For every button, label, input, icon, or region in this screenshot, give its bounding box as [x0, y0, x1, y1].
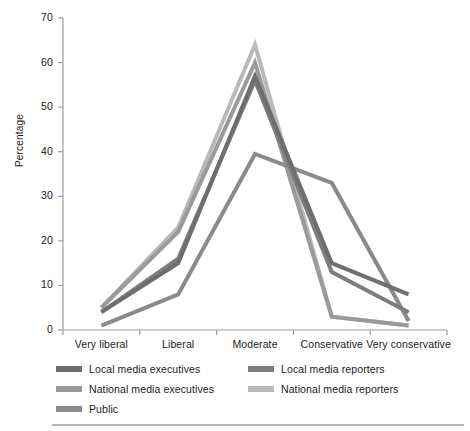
legend-swatch-icon — [248, 386, 274, 392]
y-axis-tick-label: 70 — [27, 11, 53, 23]
y-axis-tick-label: 40 — [27, 145, 53, 157]
y-axis-tick-label: 30 — [27, 189, 53, 201]
legend-swatch-icon — [56, 386, 82, 392]
chart-legend: Local media executivesLocal media report… — [56, 362, 456, 422]
x-axis-tick-label: Very conservative — [349, 338, 469, 350]
legend-swatch-icon — [56, 406, 82, 412]
legend-item-label: Public — [89, 403, 118, 415]
y-axis-tick-label: 10 — [27, 278, 53, 290]
y-axis-tick-label: 0 — [27, 323, 53, 335]
y-axis-tick-label: 50 — [27, 100, 53, 112]
legend-item[interactable]: National media executives — [56, 382, 214, 396]
legend-item[interactable]: Public — [56, 402, 118, 416]
series-line — [101, 154, 408, 326]
bottom-divider — [52, 424, 464, 426]
legend-swatch-icon — [248, 366, 274, 372]
legend-item-label: Local media executives — [89, 363, 200, 375]
y-axis-tick-label: 60 — [27, 56, 53, 68]
legend-swatch-icon — [56, 366, 82, 372]
legend-item-label: National media executives — [89, 383, 214, 395]
y-axis-tick-label: 20 — [27, 234, 53, 246]
line-chart: Percentage 010203040506070 Very liberalL… — [0, 0, 470, 431]
legend-item-label: National media reporters — [281, 383, 398, 395]
series-line — [101, 76, 408, 312]
legend-item[interactable]: National media reporters — [248, 382, 398, 396]
legend-item[interactable]: Local media reporters — [248, 362, 385, 376]
legend-item[interactable]: Local media executives — [56, 362, 200, 376]
legend-item-label: Local media reporters — [281, 363, 385, 375]
